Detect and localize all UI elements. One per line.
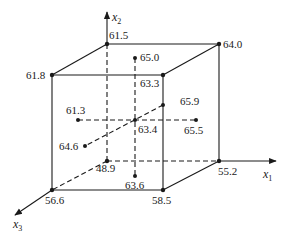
value-back-top-right: 64.0 [223,39,242,50]
x1-axis-label: x1 [263,168,272,183]
x2-axis-label: x2 [112,11,121,26]
cube-drawing [0,0,286,232]
value-front: 64.6 [59,141,78,152]
value-front-bottom-right: 58.5 [152,195,171,206]
value-back-bottom-left: 48.9 [96,163,115,174]
value-front-bottom-left: 56.6 [45,195,64,206]
value-bottom: 63.6 [125,180,144,191]
value-front-top-left: 61.8 [26,70,45,81]
value-center: 63.4 [138,124,157,135]
value-front-top-right: 63.3 [140,78,159,89]
cube-diagram: x2 x1 x3 61.5 64.0 61.8 63.3 48.9 55.2 5… [0,0,286,232]
value-right: 65.5 [184,125,203,136]
value-back-top-left: 61.5 [109,30,128,41]
value-back-bottom-right: 55.2 [218,166,237,177]
value-back: 65.9 [180,96,199,107]
value-top: 65.0 [140,52,159,63]
value-left: 61.3 [66,105,85,116]
x3-axis-label: x3 [13,218,22,232]
